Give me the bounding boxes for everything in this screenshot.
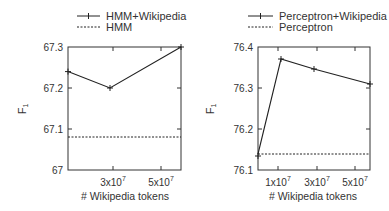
y-ticks [68,47,181,170]
chart-left-hmm: HMM+Wikipedia HMM 67.3 67.2 67.1 67 F1 3… [16,10,187,202]
y-axis-label: F1 [16,104,29,115]
y-tick-label: 67.3 [44,42,64,53]
y-tick-label: 67.2 [44,83,64,94]
y-tick-label: 76.2 [234,124,254,135]
plot-frame [258,47,370,170]
x-tick-label: 5x107 [342,175,368,188]
ticks [258,47,370,170]
x-tick-label: 5x107 [148,175,174,188]
y-tick-label: 76.4 [234,42,254,53]
x-tick-label: 1x107 [265,175,291,188]
x-axis-label: # Wikipedia tokens [269,190,357,202]
svg-text:F1: F1 [204,104,217,115]
legend-label: Perceptron [279,21,333,33]
legend-label: HMM [106,21,132,33]
plus-markers [255,56,373,159]
series-hmm-wikipedia [68,47,181,88]
svg-text:F1: F1 [16,104,29,115]
legend: Perceptron+Wikipedia Perceptron [248,10,388,33]
plot-frame [68,47,181,170]
x-tick-label: 3x107 [304,175,330,188]
y-tick-label: 76.1 [234,165,254,176]
x-axis-label: # Wikipedia tokens [81,190,169,202]
y-axis-label: F1 [204,104,217,115]
figure: HMM+Wikipedia HMM 67.3 67.2 67.1 67 F1 3… [0,0,389,211]
chart-right-perceptron: Perceptron+Wikipedia Perceptron 76.4 76.… [204,10,388,202]
y-tick-label: 76.3 [234,83,254,94]
plus-markers [65,44,184,91]
legend: HMM+Wikipedia HMM [77,10,187,33]
y-tick-label: 67 [52,165,64,176]
x-tick-label: 3x107 [100,175,126,188]
series-perceptron-wikipedia [258,59,370,154]
y-tick-label: 67.1 [44,124,64,135]
